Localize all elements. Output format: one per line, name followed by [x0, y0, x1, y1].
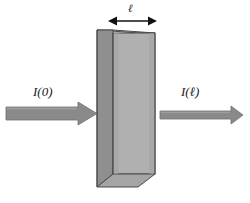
transmitted-arrow-highlight — [161, 112, 230, 113]
cuvette-front-face — [113, 33, 155, 174]
dimension-arrowhead-left — [108, 17, 117, 26]
path-length-label: ℓ — [128, 3, 133, 14]
incident-beam-arrow — [6, 102, 97, 125]
cuvette-side-face — [97, 30, 113, 187]
cuvette-front-right-edge — [149, 34, 154, 174]
dimension-arrowhead-right — [148, 17, 157, 26]
cuvette-front-shadow-edge — [114, 34, 119, 174]
incident-arrow-highlight — [7, 108, 77, 110]
path-length-dimension-arrow — [108, 17, 157, 26]
transmitted-intensity-label: I(ℓ) — [181, 85, 199, 98]
transmitted-arrow-body — [160, 106, 243, 124]
sample-cell — [97, 30, 155, 187]
diagram-canvas — [0, 0, 250, 203]
incident-arrow-body — [6, 102, 97, 125]
beer-lambert-absorption-diagram: ℓ I(0) I(ℓ) — [0, 0, 250, 203]
incident-intensity-label: I(0) — [33, 85, 53, 98]
transmitted-beam-arrow — [160, 106, 243, 124]
